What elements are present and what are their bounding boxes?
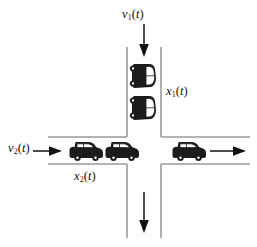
traffic-intersection-diagram: v1(t) x1(t) v2(t) x2(t) xyxy=(0,0,257,247)
label-inflow-vertical: v1(t) xyxy=(122,8,144,22)
label-x2-symbol: x xyxy=(74,169,80,183)
vehicle-horizontal-departing xyxy=(173,142,207,161)
vehicle-horizontal-queue-1 xyxy=(70,142,104,161)
intersection-schematic xyxy=(0,0,257,247)
label-v2-symbol: v xyxy=(8,141,14,155)
vehicle-horizontal-queue-2 xyxy=(106,142,140,161)
label-inflow-horizontal: v2(t) xyxy=(8,142,30,156)
top-inflow-arrow xyxy=(139,24,149,57)
vehicle-vertical-queue-1 xyxy=(130,64,156,88)
vehicle-vertical-queue-2 xyxy=(130,96,156,120)
label-queue-horizontal: x2(t) xyxy=(74,170,96,184)
label-queue-vertical: x1(t) xyxy=(166,85,188,99)
left-inflow-arrow xyxy=(33,146,62,156)
bottom-outflow-arrow xyxy=(139,192,149,233)
right-outflow-arrow xyxy=(210,146,246,156)
label-v1-symbol: v xyxy=(122,7,128,21)
label-x1-symbol: x xyxy=(166,84,172,98)
